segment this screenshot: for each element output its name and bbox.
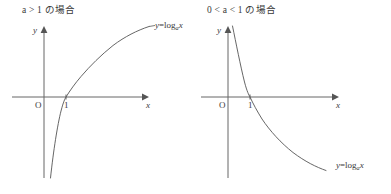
panel-a-between-0-and-1: 0 < a < 1 の場合 y x O 1 y=logax — [195, 0, 391, 194]
case-title-left: a > 1 の場合 — [22, 6, 75, 16]
curve-equation-label-right: y=logax — [336, 161, 364, 171]
case-title-right: 0 < a < 1 の場合 — [207, 6, 276, 16]
eq-arg-left: x — [179, 20, 183, 30]
log-curve-decreasing — [233, 26, 327, 171]
x-tick-label-one-right: 1 — [248, 101, 253, 110]
eq-arg-right: x — [360, 160, 364, 170]
y-axis-label-left: y — [33, 26, 37, 35]
y-axis-label-right: y — [217, 26, 221, 35]
eq-fn-right: log — [345, 160, 357, 170]
logarithm-graph-figure: a > 1 の場合 y x O 1 y=logax — [0, 0, 391, 194]
panel-a-greater-than-1: a > 1 の場合 y x O 1 y=logax — [0, 0, 196, 194]
curve-equation-label-left: y=logax — [155, 21, 183, 31]
eq-fn-left: log — [164, 20, 176, 30]
x-tick-label-one-left: 1 — [64, 101, 69, 110]
origin-label-left: O — [35, 101, 42, 110]
x-axis-label-left: x — [146, 101, 150, 110]
origin-label-right: O — [219, 101, 226, 110]
x-axis-left — [12, 94, 149, 101]
x-axis-label-right: x — [336, 101, 340, 110]
